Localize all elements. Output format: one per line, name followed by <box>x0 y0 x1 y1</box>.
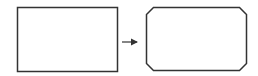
transformation-diagram <box>0 0 258 76</box>
source-rectangle <box>18 8 118 72</box>
chamfered-rectangle <box>147 8 247 71</box>
